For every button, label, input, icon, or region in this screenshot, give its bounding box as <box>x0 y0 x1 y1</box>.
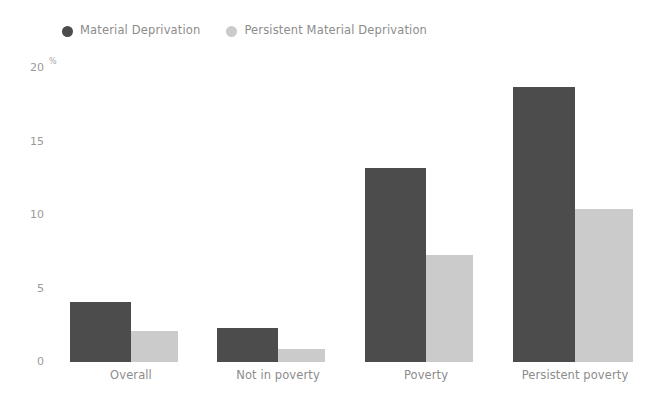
bar[interactable] <box>426 255 473 362</box>
bar[interactable] <box>365 168 426 362</box>
bar[interactable] <box>575 209 633 362</box>
bar[interactable] <box>131 331 178 362</box>
bar[interactable] <box>278 349 325 362</box>
x-axis-category-label: Persistent poverty <box>495 370 655 382</box>
x-axis-category-label: Not in poverty <box>198 370 358 382</box>
bar[interactable] <box>513 87 575 362</box>
x-axis-category-label: Overall <box>51 370 211 382</box>
x-axis-category-label: Poverty <box>346 370 506 382</box>
bar-chart: % 20151050 OverallNot in povertyPovertyP… <box>0 0 658 406</box>
bar[interactable] <box>217 328 278 362</box>
bar[interactable] <box>70 302 131 362</box>
plot-area <box>0 0 658 406</box>
